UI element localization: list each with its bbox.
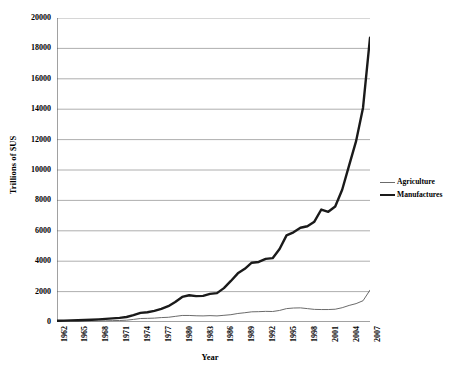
x-axis-tick-label: 2001: [332, 326, 340, 342]
y-axis-tick-label: 2000: [18, 288, 54, 296]
x-axis-tick-label: 1971: [123, 326, 131, 342]
x-axis-tick-label: 1995: [290, 326, 298, 342]
legend-item-manufactures: Manufactures: [380, 189, 452, 201]
x-axis-tick-label: 1974: [144, 326, 152, 342]
x-axis-tick-label: 2007: [374, 326, 382, 342]
y-axis-tick-label: 6000: [18, 227, 54, 235]
x-axis-title: Year: [0, 352, 420, 362]
series-line-manufactures: [57, 38, 370, 321]
x-axis-tick-label: 1998: [311, 326, 319, 342]
plot-area: [57, 18, 370, 322]
y-axis-tick-label: 16000: [18, 75, 54, 83]
x-axis-tick-label: 1965: [81, 326, 89, 342]
y-axis-tick-label: 10000: [18, 166, 54, 174]
x-axis-tick-label: 1977: [165, 326, 173, 342]
x-axis-tick-label: 1986: [227, 326, 235, 342]
plot-svg: [57, 18, 370, 322]
thin-line-swatch: [380, 177, 395, 187]
legend-item-label: Manufactures: [397, 191, 442, 199]
chart-legend: AgricultureManufactures: [380, 176, 452, 202]
x-axis-tick-label: 1992: [269, 326, 277, 342]
x-axis-tick-label: 1989: [248, 326, 256, 342]
thick-line-swatch: [380, 190, 395, 200]
legend-item-agriculture: Agriculture: [380, 176, 452, 188]
y-axis-tick-label: 4000: [18, 257, 54, 265]
x-axis-title-label: Year: [202, 352, 219, 362]
legend-line-glyph: [380, 194, 395, 196]
y-axis-tick-label: 8000: [18, 196, 54, 204]
x-axis-tick-label: 1980: [186, 326, 194, 342]
x-axis-tick-labels: 1962196519681971197419771980198319861989…: [57, 326, 370, 370]
legend-item-label: Agriculture: [397, 178, 435, 186]
y-axis-tick-label: 14000: [18, 105, 54, 113]
x-axis-tick-label: 1983: [207, 326, 215, 342]
line-chart: Trillions of $US 02000400060008000100001…: [0, 0, 453, 378]
y-axis-tick-label: 0: [18, 318, 54, 326]
y-axis-title-label: Trillions of $US: [8, 136, 18, 195]
x-axis-tick-label: 1962: [61, 326, 69, 342]
y-axis-tick-label: 12000: [18, 136, 54, 144]
y-axis-tick-label: 20000: [18, 14, 54, 22]
legend-line-glyph: [380, 182, 395, 183]
series-line-agriculture: [57, 290, 370, 321]
x-axis-tick-label: 1968: [102, 326, 110, 342]
y-axis-tick-label: 18000: [18, 44, 54, 52]
x-axis-tick-label: 2004: [353, 326, 361, 342]
y-axis-tick-labels: 0200040006000800010000120001400016000180…: [18, 0, 54, 378]
